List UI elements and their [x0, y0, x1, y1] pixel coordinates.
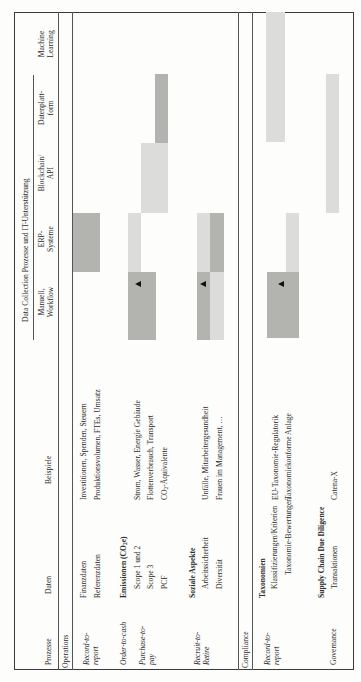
process-governance: Governance [329, 628, 338, 665]
process-compliance-record-to-report: Record-to- report [263, 632, 281, 665]
table-frame [14, 12, 354, 670]
beispiel-referenz: Produktionsvolumen, FTEs, Umsatz [93, 389, 102, 500]
daten-transaktionen: Transaktionen [330, 546, 339, 589]
marker-triangle-icon [135, 281, 141, 287]
group-header-title: Data Collection Prozesse und IT-Unterstü… [21, 178, 30, 322]
bar-scope12-erp [128, 213, 141, 272]
col-header-ml: Machine Learning [37, 13, 55, 75]
bar-arbeit-erp [197, 213, 210, 272]
daten-referenzdaten: Referenzdaten [93, 554, 102, 598]
daten-taxonomie-bewertungen: Taxonomie-Bewertungen [284, 498, 293, 575]
daten-diversitaet: Diversität [215, 559, 224, 589]
bar-emissions-manual [128, 272, 156, 340]
beispiel-eu-taxonomie: EU-Taxonomie-Regulatorik [271, 415, 280, 500]
col-header-manual: Manuell, Workflow [37, 274, 55, 330]
bar-divers-erp [210, 213, 224, 272]
bar-tax-ml [266, 12, 285, 142]
process-record-to-report: Record-to- report [82, 632, 100, 665]
marker-triangle-icon [278, 281, 284, 287]
col-header-beispiele: Beispiele [44, 456, 53, 484]
col-header-erp: ERP- Systeme [37, 210, 55, 268]
beispiel-strom: Strom, Wasser, Energie Gebäude [133, 400, 142, 500]
bar-scope3-blockchain [141, 143, 168, 213]
daten-taxonomien: Taxonomien [258, 558, 267, 598]
beispiel-flotte: Flottenverbrauch, Transport [146, 415, 155, 500]
beispiel-co2: CO2-Äquivalente [160, 447, 171, 500]
beispiel-frauen: Frauen im Management, … [215, 416, 224, 500]
bar-tax-erp [286, 213, 299, 272]
process-purchase-to-pay: Purchase-to- pay [138, 626, 156, 665]
operations-line [72, 12, 73, 670]
compliance-top-line [238, 12, 239, 670]
daten-scope3: Scope 3 [146, 565, 155, 589]
bar-trans-datenplattform [326, 74, 339, 213]
col-header-datenplattform: Datenplatt- form [37, 76, 55, 140]
col-header-prozesse: Prozesse [44, 638, 53, 665]
daten-arbeitssicherheit: Arbeitssicherheit [201, 537, 210, 589]
marker-triangle-icon [200, 281, 206, 287]
section-compliance: Compliance [241, 631, 250, 668]
process-order-to-cash: Order-to-cash [119, 622, 128, 665]
col-header-blockchain: Blockchain/ API [37, 142, 55, 204]
daten-klassifizierungen: Klassifizierungen/Kriterien [270, 506, 279, 589]
beispiel-unfaelle: Unfälle, Mitarbeitergesundheit [201, 407, 210, 501]
beispiel-finanz: Investitionen, Spenden, Steuern [79, 403, 88, 500]
daten-supply-chain: Supply Chain Due Diligence [317, 507, 326, 598]
compliance-bottom-line [252, 12, 253, 670]
header-divider [33, 75, 34, 340]
header-bottom-line [58, 12, 59, 670]
section-operations: Operations [61, 635, 70, 668]
process-recruit-to-retire: Recruit-to- Retire [193, 632, 211, 665]
bar-finanz-erp [73, 213, 100, 272]
col-header-daten: Daten [44, 576, 53, 594]
daten-scope12: Scope 1 und 2 [133, 546, 142, 589]
daten-pcf: PCF [160, 575, 169, 589]
bar-pcf-datenplattform [155, 74, 168, 143]
daten-soziale-aspekte: Soziale Aspekte [188, 548, 197, 598]
beispiel-taxonomie-anlage: Taxonomiekonforme Anlage [284, 413, 293, 500]
daten-emissionen: Emissionen (CO2e) [119, 536, 130, 598]
bar-divers-manual [210, 272, 224, 340]
daten-finanzdaten: Finanzdaten [79, 561, 88, 598]
beispiel-catena-x: Catena-X [330, 471, 339, 500]
